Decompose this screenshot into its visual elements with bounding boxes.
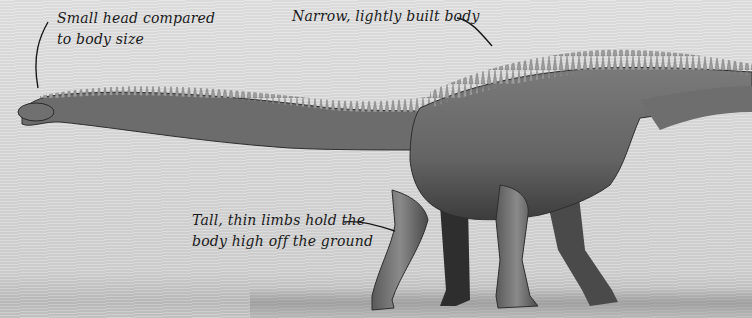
annotation-limbs-line-1: Tall, thin limbs hold the <box>192 210 373 231</box>
annotation-head: Small head compared to body size <box>57 8 215 50</box>
annotation-head-line-1: Small head compared <box>57 8 215 29</box>
annotation-limbs: Tall, thin limbs hold the body high off … <box>192 210 373 252</box>
dinosaur-illustration: Small head compared to body size Narrow,… <box>0 0 752 318</box>
neck <box>22 92 440 150</box>
annotation-head-line-2: to body size <box>57 29 215 50</box>
annotation-body: Narrow, lightly built body <box>292 6 480 27</box>
annotation-body-line-1: Narrow, lightly built body <box>292 6 480 27</box>
leader-head <box>36 22 48 88</box>
head <box>18 103 54 121</box>
annotation-limbs-line-2: body high off the ground <box>192 231 373 252</box>
